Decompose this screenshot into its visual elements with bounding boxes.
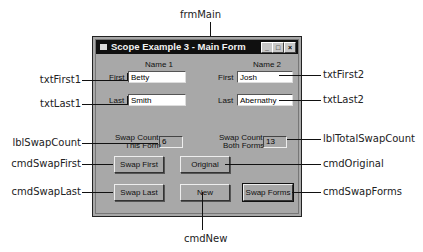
swap-first-button[interactable]: Swap First: [114, 156, 164, 173]
callout-txtLast2: txtLast2: [323, 94, 364, 106]
form-window: Scope Example 3 - Main Form _ □ × Name 1…: [92, 36, 302, 217]
leader-txtFirst1-vertical: [127, 73, 128, 81]
leader-cmdSwapLast: [82, 192, 113, 193]
lblTotalSwapCount-value: 13: [263, 136, 287, 148]
last2-label: Last: [218, 96, 233, 105]
name1-heading: Name 1: [145, 60, 173, 69]
lblSwapCount-value: 6: [159, 136, 183, 148]
callout-lblTotalSwapCount: lblTotalSwapCount: [323, 133, 415, 145]
swap-forms-button[interactable]: Swap Forms: [243, 184, 293, 201]
callout-cmdSwapLast: cmdSwapLast: [12, 186, 81, 198]
callout-cmdSwapFirst: cmdSwapFirst: [11, 158, 81, 170]
txtFirst1-input[interactable]: Betty: [128, 71, 186, 83]
close-button[interactable]: ×: [284, 42, 296, 53]
leader-cmdOriginal: [225, 164, 321, 165]
leader-txtLast2: [279, 100, 321, 101]
maximize-button[interactable]: □: [272, 42, 284, 53]
callout-txtLast1: txtLast1: [40, 98, 81, 110]
leader-cmdSwapForms: [292, 192, 321, 193]
swap-last-button[interactable]: Swap Last: [114, 184, 164, 201]
leader-txtLast1: [82, 104, 128, 105]
original-button[interactable]: Original: [180, 156, 230, 173]
leader-lblSwapCount: [82, 143, 158, 144]
new-button[interactable]: New: [180, 184, 230, 201]
title-bar[interactable]: Scope Example 3 - Main Form _ □ ×: [96, 40, 298, 54]
leader-lblTotalSwapCount: [287, 139, 321, 140]
system-menu-icon[interactable]: [100, 44, 107, 50]
first2-label: First: [218, 73, 234, 82]
swapcount2-label-line2: Both Forms: [223, 141, 264, 150]
callout-txtFirst1: txtFirst1: [40, 74, 81, 86]
window-title: Scope Example 3 - Main Form: [111, 40, 246, 54]
leader-cmdSwapFirst: [82, 164, 113, 165]
txtLast1-input[interactable]: Smith: [128, 94, 186, 106]
callout-cmdNew: cmdNew: [184, 233, 227, 245]
name2-heading: Name 2: [253, 60, 281, 69]
callout-cmdOriginal: cmdOriginal: [323, 158, 384, 170]
leader-txtLast1-vertical: [127, 96, 128, 104]
leader-txtFirst2: [279, 75, 321, 76]
leader-txtFirst1: [82, 80, 128, 81]
txtFirst2-input[interactable]: Josh: [237, 71, 293, 83]
callout-frmMain: frmMain: [180, 9, 221, 21]
callout-lblSwapCount: lblSwapCount: [12, 137, 81, 149]
callout-cmdSwapForms: cmdSwapForms: [323, 186, 402, 198]
callout-txtFirst2: txtFirst2: [323, 69, 364, 81]
leader-cmdNew: [202, 192, 203, 230]
